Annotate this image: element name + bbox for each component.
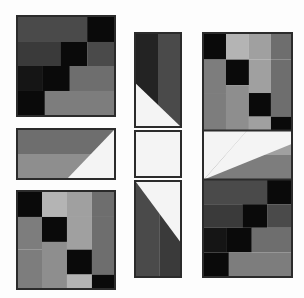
patch-5	[18, 66, 43, 91]
patch-3	[60, 42, 87, 66]
patch-2	[18, 42, 60, 66]
patch-6	[67, 217, 92, 250]
patch-12	[271, 117, 291, 131]
patch-7	[252, 228, 291, 253]
patch-7	[70, 66, 114, 91]
patch-0	[204, 180, 267, 205]
light-grid-block-lower-left	[16, 190, 116, 290]
patch-10	[18, 250, 42, 288]
patch-6	[43, 66, 70, 91]
diagonal-block-center-bottom	[134, 180, 182, 278]
patch-12	[92, 275, 114, 288]
patch-9	[249, 93, 271, 117]
patch-7	[271, 60, 291, 117]
patch-5	[204, 228, 227, 253]
patch-6	[249, 60, 271, 93]
patch-10	[204, 93, 226, 130]
patch-8	[18, 91, 45, 115]
patch-4	[267, 204, 291, 228]
patch-8	[42, 242, 67, 288]
patch-0	[204, 34, 226, 60]
patch-1	[87, 17, 114, 42]
patch-8	[204, 252, 229, 276]
right-upper-grid	[204, 34, 291, 130]
right-lower-grid	[204, 180, 291, 276]
tall-composite-block-right	[202, 32, 293, 278]
artwork-canvas: Grayscale geometric quilt-block composit…	[0, 0, 304, 298]
patch-5	[226, 60, 249, 86]
patch-4	[87, 42, 114, 66]
patch-2	[67, 192, 92, 217]
patch-11	[249, 117, 271, 131]
diagonal-bar-block-middle-left	[16, 128, 116, 180]
patch-9	[229, 252, 291, 276]
patch-8	[226, 85, 249, 130]
patch-6	[227, 228, 252, 253]
patch-9	[45, 91, 114, 115]
patch-0	[18, 192, 42, 217]
dark-grid-block-upper-left	[16, 15, 116, 117]
patch-3	[92, 192, 114, 217]
patch-1	[42, 192, 67, 217]
patch-1	[267, 180, 291, 205]
patch-5	[42, 217, 67, 242]
artwork-title: Grayscale geometric quilt-block composit…	[0, 0, 1, 1]
patch-2	[249, 34, 271, 60]
right-middle-diagonal	[204, 130, 291, 179]
shape-0	[136, 132, 180, 176]
patch-4	[18, 217, 42, 250]
white-block-center-middle	[134, 130, 182, 178]
diagonal-block-center-top	[134, 32, 182, 128]
patch-1	[226, 34, 249, 60]
patch-7	[92, 217, 114, 275]
patch-2	[204, 204, 242, 228]
patch-0	[18, 17, 87, 42]
patch-11	[67, 275, 92, 288]
patch-3	[242, 204, 267, 228]
patch-3	[271, 34, 291, 60]
patch-9	[67, 250, 92, 275]
patch-4	[204, 60, 226, 93]
